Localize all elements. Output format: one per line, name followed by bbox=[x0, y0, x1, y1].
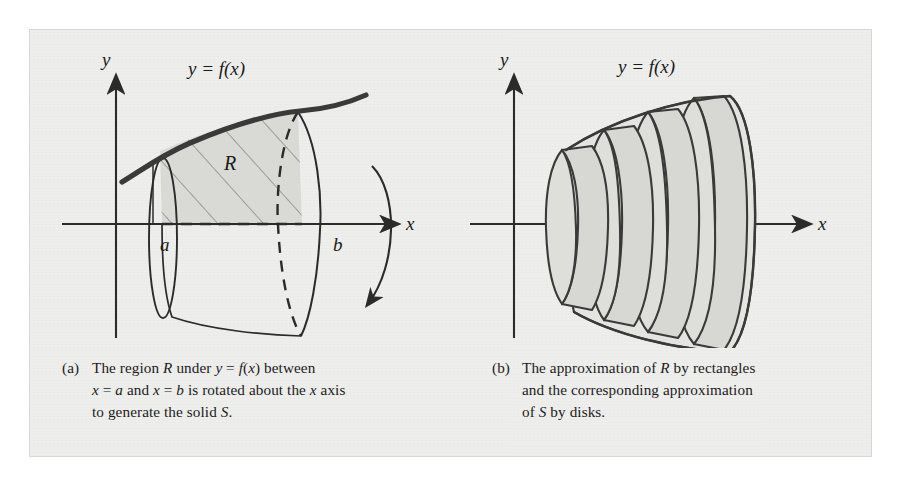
caption-marker-a: (a) bbox=[62, 357, 79, 379]
diagram-solid-of-revolution: y x y = f(x) R a b bbox=[50, 38, 450, 348]
caption-marker-b: (b) bbox=[492, 357, 510, 379]
caption-a-line-2: x = a and x = b is rotated about the x a… bbox=[92, 379, 442, 401]
caption-b: (b) The approximation of R by rectangles… bbox=[492, 357, 862, 423]
caption-b-line-3: of S by disks. bbox=[522, 401, 862, 423]
x-axis-label-a: x bbox=[405, 213, 415, 234]
y-axis-label-a: y bbox=[100, 49, 111, 70]
caption-a-line-1: The region R under y = f(x) between bbox=[92, 357, 442, 379]
caption-b-line-1: The approximation of R by rectangles bbox=[522, 357, 862, 379]
rotation-arrow bbox=[368, 166, 391, 304]
curve-label-b: y = f(x) bbox=[616, 56, 675, 78]
caption-b-line-2: and the corresponding approximation bbox=[522, 379, 862, 401]
figure-page: y x y = f(x) R a b bbox=[0, 0, 903, 488]
y-axis-label-b: y bbox=[498, 49, 509, 70]
curve-label-a: y = f(x) bbox=[186, 58, 245, 80]
solid-body-outline bbox=[162, 225, 301, 336]
diagram-disk-approximation: y x y = f(x) bbox=[462, 38, 862, 348]
disk-1 bbox=[546, 146, 608, 310]
bound-label-b: b bbox=[333, 234, 343, 255]
x-axis-label-b: x bbox=[817, 213, 827, 234]
caption-a-line-3: to generate the solid S. bbox=[92, 401, 442, 423]
bound-label-a: a bbox=[160, 234, 170, 255]
caption-a: (a) The region R under y = f(x) between … bbox=[62, 357, 442, 423]
region-label-R: R bbox=[223, 152, 236, 174]
